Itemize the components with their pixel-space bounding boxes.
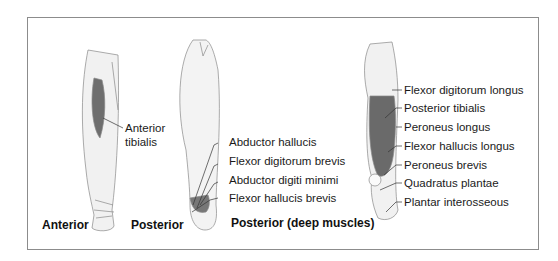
anterior-leg-illustration — [82, 50, 118, 231]
caption-posterior-deep-muscles: Posterior (deep muscles) — [231, 216, 374, 230]
label-quadratus-plantae: Quadratus plantae — [404, 177, 499, 190]
label-flexor-digitorum-longus: Flexor digitorum longus — [404, 84, 524, 97]
label-anterior-tibialis-line2: tibialis — [125, 136, 157, 149]
label-posterior-tibialis: Posterior tibialis — [404, 102, 485, 115]
caption-posterior: Posterior — [131, 218, 184, 232]
label-abductor-digiti-minimi: Abductor digiti minimi — [229, 174, 338, 187]
deep-muscles-leg-illustration — [365, 42, 399, 220]
label-abductor-hallucis: Abductor hallucis — [229, 136, 317, 149]
label-flexor-hallucis-longus: Flexor hallucis longus — [404, 140, 515, 153]
label-flexor-digitorum-brevis: Flexor digitorum brevis — [229, 155, 345, 168]
label-peroneus-longus: Peroneus longus — [404, 121, 490, 134]
label-anterior-tibialis-line1: Anterior — [125, 122, 165, 135]
caption-anterior: Anterior — [42, 218, 89, 232]
label-peroneus-brevis: Peroneus brevis — [404, 159, 487, 172]
label-plantar-interosseous: Plantar interosseous — [404, 196, 509, 209]
label-flexor-hallucis-brevis: Flexor hallucis brevis — [229, 192, 336, 205]
